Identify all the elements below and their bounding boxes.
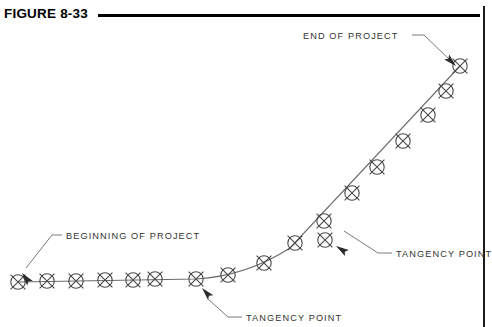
end-of-project-leader-line bbox=[412, 35, 452, 62]
station-marker bbox=[221, 268, 236, 283]
figure-page: FIGURE 8-33 END OF PROJECTBEGINNING OF P… bbox=[0, 0, 492, 327]
beginning-of-project-label: BEGINNING OF PROJECT bbox=[66, 231, 200, 241]
station-marker bbox=[421, 108, 436, 123]
station-marker bbox=[148, 272, 163, 287]
station-marker bbox=[396, 134, 411, 149]
station-marker bbox=[317, 214, 332, 229]
station-marker bbox=[257, 256, 272, 271]
alignment-centerline-group bbox=[18, 66, 460, 282]
tangency-point-upper-station-marker bbox=[318, 233, 333, 248]
beginning-of-project-leader-line bbox=[26, 235, 62, 268]
station-marker bbox=[288, 236, 303, 251]
alignment-centerline bbox=[18, 66, 460, 282]
tangency-point-upper-label: TANGENCY POINT bbox=[396, 249, 492, 259]
callout-leaders-group bbox=[19, 35, 458, 317]
station-marker bbox=[345, 186, 360, 201]
station-marker bbox=[370, 160, 385, 175]
end-of-project-station-marker bbox=[453, 59, 468, 74]
route-alignment-diagram: END OF PROJECTBEGINNING OF PROJECTTANGEN… bbox=[0, 0, 492, 327]
tangency-point-upper-arrowhead bbox=[334, 243, 349, 256]
end-of-project-label: END OF PROJECT bbox=[303, 31, 399, 41]
tangency-point-upper-leader-line bbox=[344, 231, 392, 253]
tangency-point-lower-label: TANGENCY POINT bbox=[246, 313, 342, 323]
callout-labels-group: END OF PROJECTBEGINNING OF PROJECTTANGEN… bbox=[66, 31, 492, 323]
tangency-point-lower-leader-line bbox=[208, 299, 242, 317]
station-marker bbox=[439, 84, 454, 99]
tangency-point-lower-arrowhead bbox=[199, 286, 213, 300]
